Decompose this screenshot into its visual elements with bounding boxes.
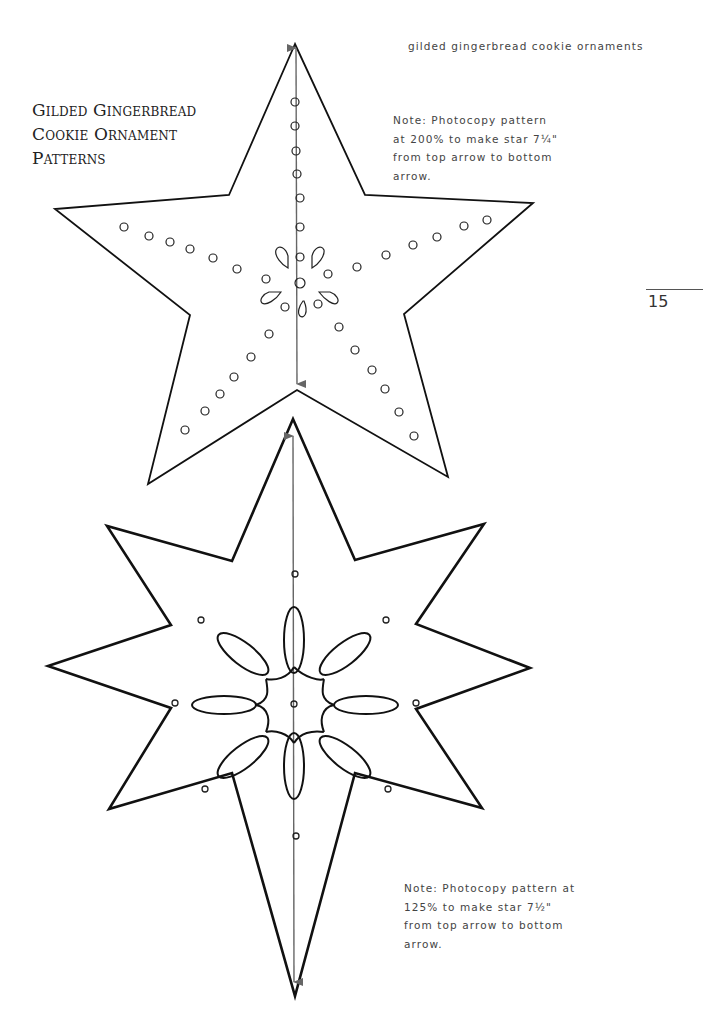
note-line: 125% to make star 7½" bbox=[404, 898, 575, 917]
note-line: from top arrow to bottom bbox=[404, 916, 575, 935]
note-line: Note: Photocopy pattern at bbox=[404, 879, 575, 898]
five-point-star-outline bbox=[55, 44, 533, 484]
looped-rosette bbox=[192, 607, 398, 799]
teardrop-holes bbox=[261, 247, 338, 317]
five-point-star-pattern bbox=[55, 44, 533, 484]
note-line: arrow. bbox=[404, 935, 575, 954]
dot-holes bbox=[120, 98, 491, 440]
measure-arrow-eight-point bbox=[293, 436, 294, 982]
note-eight-point-star: Note: Photocopy pattern at 125% to make … bbox=[404, 879, 575, 953]
patterns-illustration bbox=[0, 0, 703, 1028]
